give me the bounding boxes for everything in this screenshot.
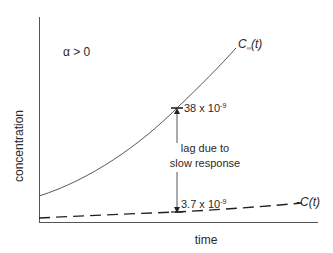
c-curve: [39, 203, 302, 218]
upper-value-exp: -9: [220, 102, 226, 109]
c-inf-label: C∞(t): [238, 38, 262, 50]
lower-value-text: 3.7 x 10: [181, 198, 220, 210]
upper-value-text: 38 x 10: [184, 102, 220, 114]
alpha-condition-label: α > 0: [63, 46, 90, 58]
c-inf-label-main: C: [238, 37, 247, 51]
lower-value-label: 3.7 x 10-9: [181, 198, 226, 210]
lag-annotation: lag due to slow response: [144, 141, 266, 171]
c-label: -C(t): [296, 196, 320, 208]
lag-line-1: lag due to: [179, 141, 231, 156]
plot-area: [0, 0, 333, 253]
upper-value-label: 38 x 10-9: [184, 102, 226, 114]
lower-value-exp: -9: [220, 198, 226, 205]
x-axis-label: time: [195, 233, 218, 247]
arrow-head-up-icon: [174, 108, 180, 114]
c-inf-label-tail: (t): [251, 37, 262, 51]
y-axis-label: concentration: [12, 110, 26, 182]
lag-line-2: slow response: [168, 156, 242, 171]
c-inf-curve: [39, 48, 236, 196]
